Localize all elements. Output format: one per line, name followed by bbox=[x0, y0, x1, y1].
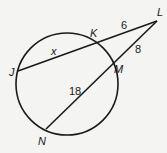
point-label-k: K bbox=[90, 27, 98, 39]
secant-nl bbox=[46, 21, 157, 129]
circle bbox=[16, 33, 118, 135]
point-label-m: M bbox=[114, 63, 124, 75]
secant-secant-diagram: J K L M N x 6 8 18 bbox=[0, 0, 167, 153]
measure-lm: 8 bbox=[135, 43, 141, 55]
point-label-l: L bbox=[157, 6, 163, 18]
measure-mn: 18 bbox=[69, 85, 81, 97]
measure-jk: x bbox=[50, 45, 57, 57]
measure-kl: 6 bbox=[121, 19, 127, 31]
point-label-j: J bbox=[8, 66, 15, 78]
point-label-n: N bbox=[38, 135, 46, 147]
